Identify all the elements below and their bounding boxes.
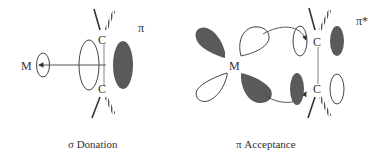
wedge-bond-bottom [308, 97, 315, 118]
hash-bond-bottom [320, 97, 330, 116]
carbon-bottom-label: C [313, 82, 321, 96]
orbital-diagram: M C C π σ Donation M [0, 0, 383, 155]
hash-bond-bottom [106, 97, 114, 114]
carbon-top-label: C [313, 35, 321, 49]
wedge-bond-top [94, 9, 100, 30]
pi-orbital-label: π [138, 21, 144, 35]
d-lobe-lower-right-filled [241, 73, 272, 103]
pistar-lobe-upper-right-filled [330, 26, 344, 56]
hash-bond-top [106, 11, 114, 30]
d-lobe-upper-left-filled [196, 27, 225, 58]
pistar-lobe-lower-left-filled [290, 73, 304, 105]
carbon-top-label: C [98, 33, 106, 47]
pistar-orbital-label: π* [356, 14, 368, 28]
carbon-bottom-label: C [98, 82, 106, 96]
sigma-donation-caption: σ Donation [68, 138, 118, 150]
metal-label: M [229, 59, 240, 73]
hash-bond-top [320, 10, 330, 30]
sigma-donation-panel: M C C π σ Donation [21, 9, 144, 150]
pistar-lobe-lower-right-open [330, 74, 344, 104]
pi-lobe-filled [113, 41, 133, 89]
pistar-lobe-upper-left-open [293, 26, 307, 56]
pi-acceptance-panel: M C C π* π Acceptance [196, 8, 368, 150]
pi-acceptance-caption: π Acceptance [236, 138, 296, 150]
metal-label: M [21, 59, 32, 73]
d-lobe-lower-left-open [196, 73, 227, 101]
d-lobe-upper-right-open [240, 27, 269, 56]
wedge-bond-bottom [92, 97, 100, 118]
wedge-bond-top [309, 8, 315, 30]
